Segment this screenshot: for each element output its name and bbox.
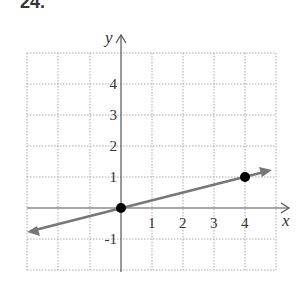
grid	[27, 53, 276, 270]
svg-text:-1: -1	[105, 231, 118, 247]
x-axis-label: x	[281, 211, 290, 230]
svg-text:3: 3	[110, 107, 118, 123]
point-origin	[116, 203, 126, 213]
y-axis-label: y	[103, 28, 113, 47]
svg-text:1: 1	[110, 169, 118, 185]
svg-text:4: 4	[241, 215, 249, 231]
line-arrow-left-icon	[27, 226, 40, 236]
y-tick-labels: 4 3 2 1 -1	[105, 76, 118, 247]
svg-text:1: 1	[148, 215, 156, 231]
svg-text:4: 4	[110, 76, 118, 92]
line-arrow-right-icon	[259, 167, 272, 177]
svg-text:3: 3	[210, 215, 218, 231]
coordinate-graph: 24. x y 1 2 3 4 4 3 2 1 -1	[0, 0, 301, 302]
axes	[27, 35, 289, 272]
problem-number: 24.	[20, 0, 45, 12]
x-tick-labels: 1 2 3 4	[148, 215, 249, 231]
svg-text:2: 2	[110, 138, 118, 154]
point-4-1	[240, 172, 250, 182]
svg-text:2: 2	[179, 215, 187, 231]
